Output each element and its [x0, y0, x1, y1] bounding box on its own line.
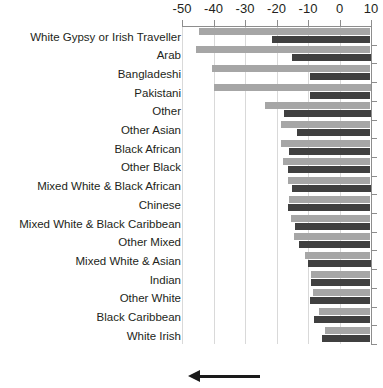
y-tick-mark: [372, 45, 377, 46]
bar: [265, 102, 370, 109]
bar: [297, 129, 371, 136]
bar: [325, 327, 370, 334]
bar: [291, 215, 371, 222]
x-tick-mark: [371, 20, 372, 26]
gridline: [214, 27, 215, 344]
bar: [288, 177, 371, 184]
bar: [299, 241, 371, 248]
bar: [310, 297, 371, 304]
category-label: Other Black: [121, 161, 181, 173]
category-label: Indian: [150, 274, 181, 286]
bar: [289, 196, 370, 203]
bar: [295, 223, 370, 230]
gridline: [182, 27, 183, 344]
x-tick-mark: [182, 20, 183, 26]
x-tick-mark: [214, 20, 215, 26]
category-label: White Gypsy or Irish Traveller: [30, 31, 181, 43]
y-tick-mark: [372, 138, 377, 139]
x-tick-mark: [277, 20, 278, 26]
category-label: Other Mixed: [118, 236, 181, 248]
category-label: Arab: [157, 49, 181, 61]
x-axis-tick-labels: -50-40-30-20-10010: [0, 2, 383, 20]
bar: [311, 271, 370, 278]
bar: [284, 110, 370, 117]
y-tick-mark: [372, 120, 377, 121]
y-tick-mark: [372, 307, 377, 308]
x-tick-mark: [245, 20, 246, 26]
bar: [272, 36, 371, 43]
category-label: Mixed White & Asian: [76, 255, 181, 267]
y-tick-mark: [372, 269, 377, 270]
bar: [313, 289, 371, 296]
category-label: Other Asian: [121, 124, 181, 136]
category-label: Black Caribbean: [97, 311, 181, 323]
category-label: Mixed White & Black Caribbean: [19, 218, 181, 230]
bar: [294, 233, 371, 240]
x-tick-mark: [308, 20, 309, 26]
y-tick-mark: [372, 250, 377, 251]
bar: [214, 84, 371, 91]
x-tick-label: -10: [299, 2, 318, 16]
y-tick-mark: [372, 82, 377, 83]
x-tick-mark: [340, 20, 341, 26]
bar: [311, 279, 370, 286]
y-tick-mark: [372, 176, 377, 177]
category-label: Chinese: [139, 199, 181, 211]
y-tick-mark: [372, 194, 377, 195]
x-tick-label: -40: [204, 2, 223, 16]
y-tick-mark: [372, 63, 377, 64]
arrow-line: [198, 375, 260, 378]
x-tick-label: -30: [236, 2, 255, 16]
bar: [289, 148, 370, 155]
category-label: Other White: [120, 292, 181, 304]
bar: [292, 185, 370, 192]
bar: [314, 316, 370, 323]
y-axis-line: [371, 26, 372, 345]
bar: [281, 140, 370, 147]
bar: [196, 46, 370, 53]
bar: [319, 308, 370, 315]
bar-chart: -50-40-30-20-10010 White Gypsy or Irish …: [0, 0, 383, 388]
y-tick-mark: [372, 101, 377, 102]
bar: [310, 92, 371, 99]
gridline: [245, 27, 246, 344]
category-label: Pakistani: [134, 87, 181, 99]
y-tick-mark: [372, 325, 377, 326]
bar: [281, 121, 370, 128]
bar: [212, 65, 371, 72]
category-label: Black African: [115, 143, 181, 155]
bar: [292, 54, 370, 61]
y-tick-mark: [372, 344, 377, 345]
y-tick-mark: [372, 213, 377, 214]
y-tick-mark: [372, 288, 377, 289]
bar: [288, 204, 371, 211]
category-label: Bangladeshi: [118, 68, 181, 80]
x-tick-label: 0: [336, 2, 343, 16]
bar: [310, 73, 371, 80]
direction-arrow: [188, 368, 260, 384]
category-label: Other: [152, 105, 181, 117]
x-tick-label: -50: [173, 2, 192, 16]
bar: [308, 260, 371, 267]
bar: [199, 28, 370, 35]
x-tick-label: 10: [364, 2, 378, 16]
bar: [288, 166, 371, 173]
y-tick-mark: [372, 157, 377, 158]
bar: [283, 158, 371, 165]
category-label: White Irish: [127, 330, 181, 342]
gridline: [277, 27, 278, 344]
bar: [322, 335, 370, 342]
category-label: Mixed White & Black African: [37, 180, 181, 192]
bar: [305, 252, 371, 259]
x-tick-label: -20: [267, 2, 286, 16]
y-tick-mark: [372, 232, 377, 233]
